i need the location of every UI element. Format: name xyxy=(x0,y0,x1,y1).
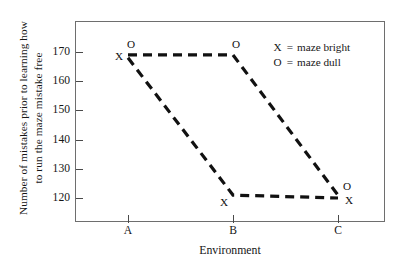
plot-data-layer xyxy=(0,0,399,264)
data-point-label-x-c: X xyxy=(345,195,353,206)
series-line-o xyxy=(128,55,338,195)
data-point-label-x-b: X xyxy=(220,197,228,208)
data-point-label-o-c: O xyxy=(343,181,351,192)
data-point-label-o-a: O xyxy=(127,39,135,50)
data-point-label-o-b: O xyxy=(232,39,240,50)
data-point-label-x-a: X xyxy=(115,51,123,62)
series-line-x xyxy=(128,58,338,198)
chart-figure: Number of mistakes prior to learning how… xyxy=(0,0,399,264)
